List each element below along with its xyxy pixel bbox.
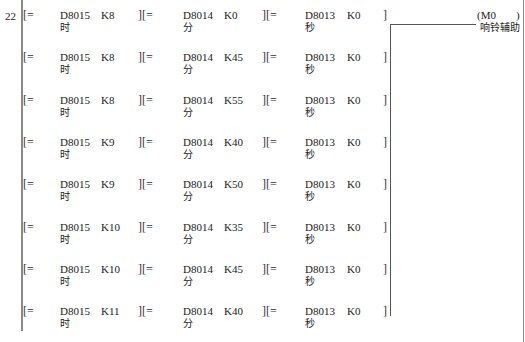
constant-hour: K10 — [101, 221, 120, 233]
compare-open-3: ][= — [262, 221, 277, 233]
constant-hour: K8 — [101, 51, 114, 63]
device-d8014: D8014 — [183, 51, 213, 63]
constant-minute: K40 — [224, 305, 243, 317]
compare-open-1: [= — [23, 94, 34, 106]
device-d8015: D8015 — [60, 221, 90, 233]
ladder-rung[interactable]: [=D8015时K8][=D8014分K45][=D8013秒K0] — [0, 51, 525, 93]
compare-open-1: [= — [23, 305, 34, 317]
comment-second: 秒 — [305, 64, 315, 76]
comment-second: 秒 — [305, 107, 315, 119]
ladder-rung[interactable]: [=D8015时K8][=D8014分K0][=D8013秒K0] — [0, 9, 525, 51]
comment-minute: 分 — [183, 191, 193, 203]
compare-open-1: [= — [23, 136, 34, 148]
compare-open-3: ][= — [262, 263, 277, 275]
comment-hour: 时 — [60, 149, 70, 161]
device-d8015: D8015 — [60, 94, 90, 106]
compare-close: ] — [383, 305, 387, 317]
compare-close: ] — [383, 178, 387, 190]
constant-minute: K50 — [224, 178, 243, 190]
device-d8015: D8015 — [60, 178, 90, 190]
compare-open-3: ][= — [262, 51, 277, 63]
device-d8015: D8015 — [60, 305, 90, 317]
comment-minute: 分 — [183, 64, 193, 76]
compare-close: ] — [383, 94, 387, 106]
compare-open-2: ][= — [138, 9, 153, 21]
compare-close: ] — [383, 51, 387, 63]
constant-second: K0 — [347, 9, 360, 21]
comment-minute: 分 — [183, 318, 193, 330]
device-d8014: D8014 — [183, 263, 213, 275]
device-d8013: D8013 — [305, 221, 335, 233]
device-d8013: D8013 — [305, 51, 335, 63]
compare-open-2: ][= — [138, 136, 153, 148]
comment-second: 秒 — [305, 149, 315, 161]
comment-hour: 时 — [60, 276, 70, 288]
compare-open-3: ][= — [262, 136, 277, 148]
constant-second: K0 — [347, 263, 360, 275]
constant-minute: K0 — [224, 9, 237, 21]
compare-open-2: ][= — [138, 305, 153, 317]
constant-second: K0 — [347, 305, 360, 317]
compare-open-3: ][= — [262, 178, 277, 190]
compare-open-1: [= — [23, 221, 34, 233]
coil-close-paren: ) — [516, 9, 520, 21]
constant-hour: K8 — [101, 9, 114, 21]
comment-minute: 分 — [183, 276, 193, 288]
comment-second: 秒 — [305, 318, 315, 330]
constant-minute: K40 — [224, 136, 243, 148]
comment-hour: 时 — [60, 64, 70, 76]
compare-open-2: ][= — [138, 51, 153, 63]
compare-open-1: [= — [23, 263, 34, 275]
device-d8013: D8013 — [305, 263, 335, 275]
ladder-rung[interactable]: [=D8015时K9][=D8014分K40][=D8013秒K0] — [0, 136, 525, 178]
comment-second: 秒 — [305, 22, 315, 34]
device-d8013: D8013 — [305, 9, 335, 21]
compare-close: ] — [383, 136, 387, 148]
compare-close: ] — [383, 9, 387, 21]
constant-minute: K55 — [224, 94, 243, 106]
coil-comment: 响铃辅助 — [480, 22, 520, 34]
constant-hour: K10 — [101, 263, 120, 275]
ladder-rung[interactable]: [=D8015时K10][=D8014分K35][=D8013秒K0] — [0, 221, 525, 263]
compare-open-2: ][= — [138, 263, 153, 275]
device-d8013: D8013 — [305, 136, 335, 148]
comment-hour: 时 — [60, 107, 70, 119]
device-d8013: D8013 — [305, 94, 335, 106]
comment-second: 秒 — [305, 191, 315, 203]
ladder-rung[interactable]: [=D8015时K10][=D8014分K45][=D8013秒K0] — [0, 263, 525, 305]
compare-open-2: ][= — [138, 221, 153, 233]
ladder-rung[interactable]: [=D8015时K8][=D8014分K55][=D8013秒K0] — [0, 94, 525, 136]
constant-second: K0 — [347, 221, 360, 233]
comment-minute: 分 — [183, 149, 193, 161]
constant-minute: K35 — [224, 221, 243, 233]
device-d8014: D8014 — [183, 305, 213, 317]
constant-second: K0 — [347, 136, 360, 148]
compare-open-1: [= — [23, 51, 34, 63]
ladder-rung[interactable]: [=D8015时K9][=D8014分K50][=D8013秒K0] — [0, 178, 525, 220]
constant-second: K0 — [347, 178, 360, 190]
compare-open-3: ][= — [262, 94, 277, 106]
output-coil[interactable]: (M0 — [477, 9, 496, 21]
compare-close: ] — [383, 221, 387, 233]
device-d8014: D8014 — [183, 9, 213, 21]
device-d8014: D8014 — [183, 136, 213, 148]
device-d8014: D8014 — [183, 94, 213, 106]
device-d8015: D8015 — [60, 263, 90, 275]
compare-open-3: ][= — [262, 9, 277, 21]
device-d8013: D8013 — [305, 305, 335, 317]
comment-hour: 时 — [60, 234, 70, 246]
constant-hour: K11 — [101, 305, 120, 317]
comment-hour: 时 — [60, 318, 70, 330]
comment-minute: 分 — [183, 22, 193, 34]
compare-open-3: ][= — [262, 305, 277, 317]
comment-second: 秒 — [305, 276, 315, 288]
device-d8014: D8014 — [183, 178, 213, 190]
device-d8015: D8015 — [60, 51, 90, 63]
device-d8014: D8014 — [183, 221, 213, 233]
comment-hour: 时 — [60, 22, 70, 34]
compare-open-2: ][= — [138, 178, 153, 190]
constant-minute: K45 — [224, 51, 243, 63]
constant-second: K0 — [347, 94, 360, 106]
constant-hour: K9 — [101, 178, 114, 190]
ladder-rung[interactable]: [=D8015时K11][=D8014分K40][=D8013秒K0] — [0, 305, 525, 342]
